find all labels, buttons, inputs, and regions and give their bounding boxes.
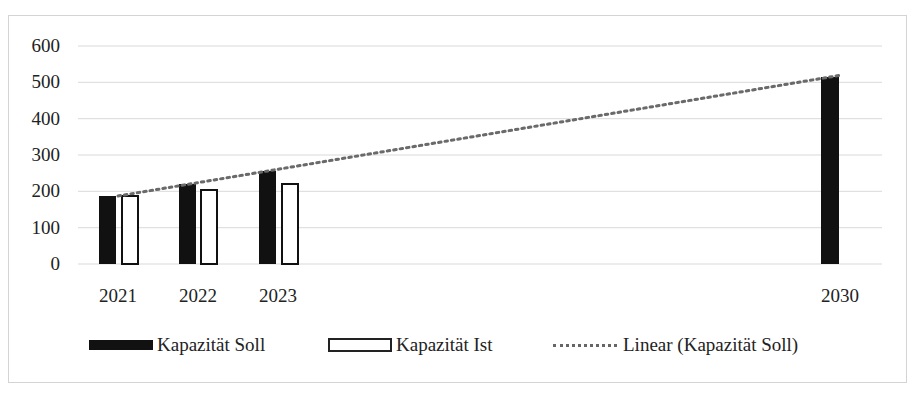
- bar-ist-2021: [122, 196, 138, 264]
- legend: Kapazität Soll Kapazität Ist Linear (Kap…: [0, 327, 919, 363]
- legend-item-linear: Linear (Kapazität Soll): [553, 327, 798, 363]
- legend-swatch-outline-icon: [328, 338, 392, 352]
- y-tick-600: 600: [32, 35, 61, 56]
- legend-swatch-dotted-line-icon: [553, 344, 617, 347]
- legend-swatch-filled-icon: [89, 340, 153, 350]
- bar-soll-2021: [99, 196, 116, 264]
- y-tick-200: 200: [32, 180, 61, 201]
- x-tick-2022: 2022: [179, 285, 217, 306]
- y-tick-300: 300: [32, 144, 61, 165]
- bar-ist-2022: [201, 190, 217, 264]
- bar-soll-2023: [259, 171, 276, 264]
- x-tick-2030: 2030: [821, 285, 859, 306]
- gridlines: [78, 46, 882, 264]
- bar-soll-2022: [179, 184, 196, 264]
- x-tick-2021: 2021: [99, 285, 137, 306]
- bar-soll-2030: [821, 77, 839, 264]
- x-axis-labels: 2021 2022 2023 2030: [99, 285, 859, 306]
- legend-item-ist: Kapazität Ist: [328, 327, 493, 363]
- legend-item-soll: Kapazität Soll: [89, 327, 265, 363]
- legend-label: Linear (Kapazität Soll): [623, 334, 798, 356]
- y-tick-400: 400: [32, 108, 61, 129]
- trendline-linear-soll: [118, 75, 842, 196]
- y-tick-0: 0: [51, 253, 61, 274]
- y-tick-500: 500: [32, 71, 61, 92]
- legend-label: Kapazität Ist: [396, 334, 493, 356]
- y-axis-labels: 600 500 400 300 200 100 0: [32, 35, 61, 274]
- bar-ist-2023: [282, 184, 298, 264]
- legend-label: Kapazität Soll: [157, 334, 265, 356]
- x-tick-2023: 2023: [259, 285, 297, 306]
- y-tick-100: 100: [32, 217, 61, 238]
